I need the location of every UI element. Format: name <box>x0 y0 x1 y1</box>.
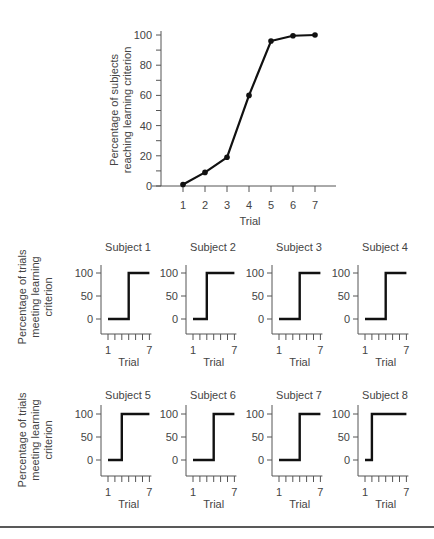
x-tick-label: 7 <box>146 344 152 356</box>
y-tick-label: 100 <box>332 408 350 420</box>
subject-panel-2: Subject 205010017Trial <box>160 241 238 368</box>
x-tick-label: 6 <box>290 199 296 211</box>
x-tick-label: 1 <box>190 486 196 498</box>
step-line <box>108 273 149 319</box>
panel-title: Subject 3 <box>276 241 322 253</box>
y-tick-label: 0 <box>87 313 93 325</box>
data-point <box>312 32 318 38</box>
x-tick-label: 7 <box>146 486 152 498</box>
y-tick-label: 0 <box>172 313 178 325</box>
y-tick-label: 100 <box>160 408 178 420</box>
y-tick-label: 0 <box>258 313 264 325</box>
shared-y-axis-label: Percentage of trialsmeeting learningcrit… <box>16 249 54 344</box>
y-tick-label: 50 <box>252 290 264 302</box>
x-tick-label: 3 <box>224 199 230 211</box>
data-point <box>290 33 296 39</box>
subject-panel-5: Subject 505010017Trial <box>75 389 153 510</box>
x-tick-label: 7 <box>317 486 323 498</box>
panel-title: Subject 4 <box>362 241 408 253</box>
panel-title: Subject 5 <box>105 389 151 401</box>
data-point <box>268 38 274 44</box>
y-tick-label: 100 <box>75 408 93 420</box>
panel-title: Subject 8 <box>362 389 408 401</box>
subject-panels: Subject 105010017TrialSubject 205010017T… <box>75 241 410 510</box>
step-line <box>193 273 234 319</box>
step-line <box>193 414 234 460</box>
y-tick-label: 20 <box>140 150 152 162</box>
y-tick-label: 40 <box>140 120 152 132</box>
data-point <box>202 170 208 176</box>
x-tick-label: 7 <box>403 486 409 498</box>
subject-panel-7: Subject 705010017Trial <box>246 389 324 510</box>
subject-panel-8: Subject 805010017Trial <box>332 389 410 510</box>
data-point <box>224 155 230 161</box>
x-tick-label: 1 <box>276 344 282 356</box>
y-tick-label: 50 <box>252 431 264 443</box>
panel-title: Subject 6 <box>190 389 236 401</box>
panel-title: Subject 1 <box>105 241 151 253</box>
x-tick-label: 1 <box>105 486 111 498</box>
panel-title: Subject 2 <box>190 241 236 253</box>
figure: 0204060801001234567TrialPercentage of su… <box>0 0 434 539</box>
x-tick-label: 1 <box>362 486 368 498</box>
y-tick-label: 100 <box>332 267 350 279</box>
step-line <box>279 273 320 319</box>
subject-panel-3: Subject 305010017Trial <box>246 241 324 368</box>
y-tick-label: 100 <box>160 267 178 279</box>
small-multiples-ylabel-row-1: Percentage of trialsmeeting learningcrit… <box>16 249 54 344</box>
y-tick-label: 60 <box>140 89 152 101</box>
y-tick-label: 100 <box>246 267 264 279</box>
x-axis-label: Trial <box>118 498 139 510</box>
step-line <box>365 414 406 460</box>
subject-panel-6: Subject 605010017Trial <box>160 389 238 510</box>
x-tick-label: 4 <box>246 199 252 211</box>
y-tick-label: 50 <box>338 431 350 443</box>
x-axis-label: Trial <box>375 356 396 368</box>
step-line <box>365 273 406 319</box>
x-axis-label: Trial <box>240 215 261 227</box>
y-tick-label: 100 <box>246 408 264 420</box>
y-tick-label: 50 <box>338 290 350 302</box>
group-learning-curve-chart: 0204060801001234567TrialPercentage of su… <box>108 29 336 227</box>
data-point <box>246 93 252 99</box>
y-tick-label: 0 <box>344 313 350 325</box>
x-tick-label: 5 <box>268 199 274 211</box>
y-tick-label: 0 <box>344 454 350 466</box>
x-tick-label: 1 <box>190 344 196 356</box>
y-tick-label: 50 <box>81 290 93 302</box>
data-point <box>180 182 186 188</box>
x-axis-label: Trial <box>203 498 224 510</box>
x-tick-label: 1 <box>105 344 111 356</box>
y-tick-label: 80 <box>140 59 152 71</box>
x-axis-label: Trial <box>118 356 139 368</box>
data-line <box>183 35 315 184</box>
x-tick-label: 7 <box>317 344 323 356</box>
x-axis-label: Trial <box>289 356 310 368</box>
panel-title: Subject 7 <box>276 389 322 401</box>
x-tick-label: 1 <box>362 344 368 356</box>
step-line <box>108 414 149 460</box>
x-axis-label: Trial <box>289 498 310 510</box>
x-axis-label: Trial <box>375 498 396 510</box>
small-multiples-ylabel-row-2: Percentage of trialsmeeting learningcrit… <box>16 392 54 487</box>
x-tick-label: 1 <box>276 486 282 498</box>
y-tick-label: 100 <box>134 29 152 41</box>
x-tick-label: 7 <box>312 199 318 211</box>
y-axis-label: Percentage of subjectsreaching learning … <box>108 47 133 174</box>
subject-panel-1: Subject 105010017Trial <box>75 241 153 368</box>
shared-y-axis-label: Percentage of trialsmeeting learningcrit… <box>16 392 54 487</box>
x-tick-label: 7 <box>231 344 237 356</box>
y-tick-label: 0 <box>87 454 93 466</box>
y-tick-label: 50 <box>81 431 93 443</box>
x-tick-label: 1 <box>180 199 186 211</box>
x-tick-label: 7 <box>403 344 409 356</box>
y-tick-label: 100 <box>75 267 93 279</box>
x-tick-label: 7 <box>231 486 237 498</box>
y-tick-label: 0 <box>258 454 264 466</box>
y-tick-label: 0 <box>172 454 178 466</box>
x-tick-label: 2 <box>202 199 208 211</box>
subject-panel-4: Subject 405010017Trial <box>332 241 410 368</box>
x-axis-label: Trial <box>203 356 224 368</box>
y-tick-label: 0 <box>146 180 152 192</box>
y-tick-label: 50 <box>166 431 178 443</box>
